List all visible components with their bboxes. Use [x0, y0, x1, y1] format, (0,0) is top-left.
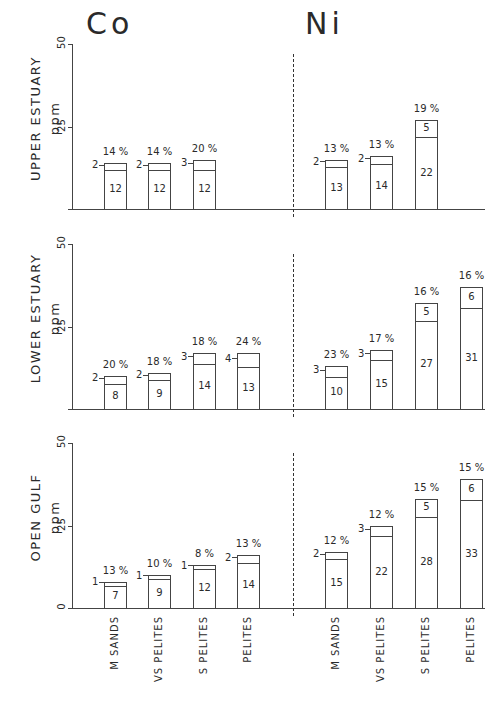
bar-base-value: 10 — [326, 386, 347, 397]
segment-divider — [194, 170, 215, 171]
segment-divider — [238, 367, 259, 368]
bar-ni-2: 225 — [415, 120, 438, 210]
segment-divider — [194, 364, 215, 365]
bar-extra-value: 3 — [313, 364, 319, 375]
bar-percent-label: 18 % — [185, 336, 225, 347]
bar-percent-label: 16 % — [452, 270, 492, 281]
bar-extra-value: 6 — [461, 483, 482, 494]
bar-percent-label: 8 % — [185, 548, 225, 559]
bar-co-1: 12 — [148, 163, 171, 210]
bar-co-1: 9 — [148, 575, 171, 609]
bar-percent-label: 13 % — [229, 538, 269, 549]
bar-extra-value: 2 — [225, 552, 231, 563]
y-unit-label: ppm — [47, 443, 62, 593]
bar-base-value: 14 — [371, 180, 392, 191]
bar-percent-label: 10 % — [140, 558, 180, 569]
y-tick — [68, 526, 73, 527]
bar-ni-0: 10 — [325, 366, 348, 410]
segment-divider — [371, 360, 392, 361]
bar-base-value: 9 — [149, 587, 170, 598]
bar-ni-3: 316 — [460, 287, 483, 410]
segment-divider — [149, 380, 170, 381]
bar-base-value: 28 — [416, 556, 437, 567]
bar-base-value: 13 — [326, 182, 347, 193]
segment-divider — [461, 500, 482, 501]
bar-extra-value: 4 — [225, 353, 231, 364]
bar-percent-label: 17 % — [362, 333, 402, 344]
segment-divider — [238, 563, 259, 564]
row-label: OPEN GULF — [28, 443, 43, 593]
bar-ni-0: 13 — [325, 160, 348, 211]
bar-extra-value: 1 — [92, 576, 98, 587]
bar-base-value: 8 — [105, 390, 126, 401]
bar-co-3: 14 — [237, 555, 260, 609]
bar-co-2: 12 — [193, 565, 216, 609]
x-category-label: PELITES — [242, 616, 253, 705]
x-category-label: M SANDS — [330, 616, 341, 705]
bar-base-value: 14 — [238, 579, 259, 590]
bar-extra-value: 3 — [358, 348, 364, 359]
bar-extra-value: 1 — [181, 560, 187, 571]
bar-ni-3: 336 — [460, 479, 483, 609]
bar-base-value: 9 — [149, 388, 170, 399]
bar-percent-label: 12 % — [317, 535, 357, 546]
bar-co-0: 8 — [104, 376, 127, 410]
bar-percent-label: 19 % — [407, 103, 447, 114]
bar-extra-value: 2 — [136, 369, 142, 380]
bar-base-value: 15 — [326, 577, 347, 588]
x-category-label: M SANDS — [109, 616, 120, 705]
bar-ni-1: 14 — [370, 156, 393, 210]
bar-percent-label: 12 % — [362, 509, 402, 520]
bar-extra-value: 3 — [181, 157, 187, 168]
segment-divider — [416, 321, 437, 322]
bar-percent-label: 13 % — [362, 139, 402, 150]
bar-percent-label: 16 % — [407, 286, 447, 297]
bar-co-2: 14 — [193, 353, 216, 410]
segment-divider — [149, 170, 170, 171]
bar-co-1: 9 — [148, 373, 171, 410]
bar-percent-label: 13 % — [317, 143, 357, 154]
segment-divider — [371, 536, 392, 537]
x-category-label: VS PELITES — [375, 616, 386, 705]
bar-extra-value: 1 — [136, 570, 142, 581]
segment-divider — [326, 559, 347, 560]
bar-extra-value: 2 — [313, 156, 319, 167]
y-unit-label: ppm — [47, 244, 62, 394]
row-label: LOWER ESTUARY — [28, 244, 43, 394]
bar-extra-value: 2 — [136, 159, 142, 170]
bar-base-value: 12 — [105, 183, 126, 194]
bar-extra-value: 2 — [313, 548, 319, 559]
bar-percent-label: 14 % — [96, 146, 136, 157]
segment-divider — [326, 167, 347, 168]
bar-percent-label: 15 % — [407, 482, 447, 493]
bar-base-value: 12 — [149, 183, 170, 194]
bar-co-2: 12 — [193, 160, 216, 211]
segment-divider — [326, 377, 347, 378]
bar-percent-label: 14 % — [140, 146, 180, 157]
bar-percent-label: 20 % — [185, 143, 225, 154]
x-category-label: S PELITES — [420, 616, 431, 705]
bar-percent-label: 13 % — [96, 565, 136, 576]
bar-base-value: 33 — [461, 548, 482, 559]
bar-base-value: 12 — [194, 183, 215, 194]
bar-base-value: 12 — [194, 582, 215, 593]
bar-extra-value: 2 — [358, 153, 364, 164]
segment-divider — [149, 579, 170, 580]
segment-divider — [371, 164, 392, 165]
segment-divider — [416, 137, 437, 138]
bar-extra-value: 5 — [416, 306, 437, 317]
y-tick — [68, 44, 73, 45]
bar-ni-0: 15 — [325, 552, 348, 609]
bar-base-value: 15 — [371, 378, 392, 389]
element-separator — [293, 453, 294, 616]
bar-base-value: 13 — [238, 382, 259, 393]
bar-extra-value: 6 — [461, 291, 482, 302]
bar-base-value: 31 — [461, 352, 482, 363]
segment-divider — [105, 384, 126, 385]
x-category-label: PELITES — [465, 616, 476, 705]
element-separator — [293, 254, 294, 417]
bar-extra-value: 5 — [416, 122, 437, 133]
title-ni: Ni — [305, 6, 344, 41]
bar-ni-2: 275 — [415, 303, 438, 410]
y-tick — [68, 443, 73, 444]
